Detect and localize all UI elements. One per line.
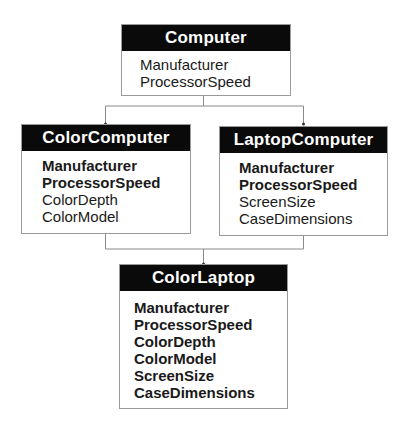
class-title: ColorComputer bbox=[22, 125, 190, 151]
attribute-list: Manufacturer ProcessorSpeed bbox=[122, 51, 290, 90]
attribute-inherited: ScreenSize bbox=[134, 367, 287, 384]
attribute-inherited: ProcessorSpeed bbox=[134, 316, 287, 333]
attribute-inherited: Manufacturer bbox=[42, 157, 190, 174]
attribute: CaseDimensions bbox=[239, 210, 387, 227]
attribute-inherited: Manufacturer bbox=[134, 299, 287, 316]
attribute-inherited: ColorDepth bbox=[134, 333, 287, 350]
class-title: Computer bbox=[122, 25, 290, 51]
class-box-colorlaptop: ColorLaptop Manufacturer ProcessorSpeed … bbox=[119, 264, 288, 409]
attribute-list: Manufacturer ProcessorSpeed ScreenSize C… bbox=[220, 153, 387, 227]
class-box-computer: Computer Manufacturer ProcessorSpeed bbox=[121, 24, 291, 96]
attribute-inherited: ProcessorSpeed bbox=[239, 176, 387, 193]
attribute: ColorModel bbox=[42, 208, 190, 225]
class-title: ColorLaptop bbox=[120, 265, 287, 291]
attribute-list: Manufacturer ProcessorSpeed ColorDepth C… bbox=[22, 151, 190, 225]
attribute-list: Manufacturer ProcessorSpeed ColorDepth C… bbox=[120, 291, 287, 401]
attribute: Manufacturer bbox=[140, 56, 290, 73]
class-box-colorcomputer: ColorComputer Manufacturer ProcessorSpee… bbox=[21, 124, 191, 234]
attribute: ProcessorSpeed bbox=[140, 73, 290, 90]
class-title: LaptopComputer bbox=[220, 127, 387, 153]
attribute-inherited: ProcessorSpeed bbox=[42, 174, 190, 191]
attribute: ScreenSize bbox=[239, 193, 387, 210]
attribute-inherited: Manufacturer bbox=[239, 159, 387, 176]
attribute-inherited: ColorModel bbox=[134, 350, 287, 367]
edge-computer-to-colorcomputer bbox=[106, 95, 204, 124]
attribute-inherited: CaseDimensions bbox=[134, 384, 287, 401]
attribute: ColorDepth bbox=[42, 191, 190, 208]
edge-computer-to-laptopcomputer bbox=[204, 106, 304, 125]
class-box-laptopcomputer: LaptopComputer Manufacturer ProcessorSpe… bbox=[219, 126, 388, 236]
